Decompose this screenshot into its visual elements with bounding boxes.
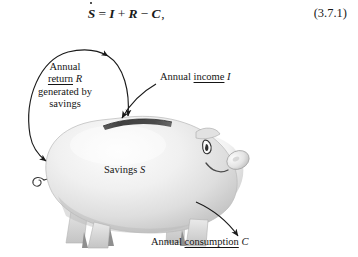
return-arrow-right-limb xyxy=(108,56,128,116)
annual-return-line-3: generated by xyxy=(38,86,92,97)
illustration-stage: Annual return R generated by savings Ann… xyxy=(0,0,358,257)
savings-prefix: Savings xyxy=(104,164,137,175)
annual-return-underlined-word: return xyxy=(48,73,73,84)
annual-income-label: Annual income I xyxy=(160,71,231,83)
annual-consumption-underlined-word: consumption xyxy=(185,236,239,247)
annual-return-symbol: R xyxy=(76,73,82,84)
annual-income-symbol: I xyxy=(227,71,231,82)
savings-symbol: S xyxy=(140,164,145,175)
annual-consumption-symbol: C xyxy=(241,236,248,247)
figure-3-7-1: S=I+R−C, (3.7.1) xyxy=(0,0,358,257)
annual-return-label: Annual return R generated by savings xyxy=(23,61,107,111)
annual-consumption-label: Annual consumption C xyxy=(151,236,248,248)
annual-income-prefix: Annual xyxy=(160,71,191,82)
piggy-bank-illustration xyxy=(0,0,358,257)
return-arrow-lower-head xyxy=(30,135,46,161)
savings-label: Savings S xyxy=(104,164,145,176)
annual-return-line-1: Annual xyxy=(50,61,81,72)
annual-income-underlined-word: income xyxy=(194,71,225,82)
annual-consumption-prefix: Annual xyxy=(151,236,182,247)
annual-return-line-4: savings xyxy=(49,98,81,109)
return-arrow-top-head xyxy=(68,50,108,56)
body-highlight xyxy=(70,125,166,165)
